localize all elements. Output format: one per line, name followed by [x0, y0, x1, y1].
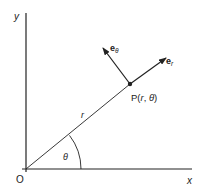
e-theta-label: eθ — [110, 43, 119, 54]
diagram-canvas: y x O r θ P(r, θ) er eθ — [0, 0, 201, 191]
point-label-suffix: ) — [154, 92, 157, 103]
polar-diagram: y x O r θ P(r, θ) er eθ — [0, 0, 201, 191]
point-p-label: P(r, θ) — [131, 92, 157, 103]
e-r-label: er — [166, 56, 174, 67]
angle-label: θ — [63, 152, 68, 162]
e-theta-sub: θ — [115, 47, 119, 54]
radius-line — [26, 84, 130, 169]
radius-label: r — [81, 110, 85, 120]
e-r-sub: r — [171, 60, 174, 67]
angle-arc — [70, 135, 82, 169]
e-r-arrow-icon — [130, 58, 166, 84]
origin-label: O — [16, 174, 24, 185]
x-axis-label: x — [186, 175, 193, 186]
y-axis-label: y — [13, 11, 20, 22]
